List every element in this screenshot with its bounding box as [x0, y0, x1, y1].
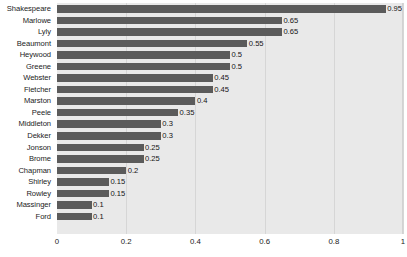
- category-label: Lyly: [0, 26, 54, 38]
- category-label: Shakespeare: [0, 3, 54, 15]
- category-label: Webster: [0, 72, 54, 84]
- bar: [57, 97, 195, 105]
- bar: [57, 28, 282, 36]
- bar-row: 0.5: [57, 49, 403, 61]
- category-label: Marlowe: [0, 15, 54, 27]
- bar-row: 0.5: [57, 61, 403, 73]
- bar-value-label: 0.1: [93, 201, 104, 209]
- bar-row: 0.95: [57, 3, 403, 15]
- bar: [57, 120, 161, 128]
- bar-row: 0.25: [57, 142, 403, 154]
- bar-value-label: 0.35: [180, 109, 195, 117]
- category-label: Marston: [0, 95, 54, 107]
- category-label: Heywood: [0, 49, 54, 61]
- bar: [57, 155, 144, 163]
- category-label: Massinger: [0, 199, 54, 211]
- bar-row: 0.4: [57, 95, 403, 107]
- category-label: Shirley: [0, 176, 54, 188]
- category-label: Brome: [0, 153, 54, 165]
- bar-value-label: 0.2: [128, 167, 139, 175]
- bar-row: 0.55: [57, 38, 403, 50]
- bar: [57, 86, 213, 94]
- bar: [57, 74, 213, 82]
- bar: [57, 40, 247, 48]
- bar: [57, 178, 109, 186]
- bar-value-label: 0.3: [162, 120, 173, 128]
- bar-value-label: 0.15: [110, 178, 125, 186]
- bar: [57, 63, 230, 71]
- plot-area: 0.950.650.650.550.50.50.450.450.40.350.3…: [57, 3, 403, 234]
- bar-row: 0.3: [57, 130, 403, 142]
- bar: [57, 5, 386, 13]
- bar-value-label: 0.55: [249, 40, 264, 48]
- bar-value-label: 0.5: [232, 51, 243, 59]
- bar: [57, 167, 126, 175]
- x-tick-label: 1: [401, 236, 405, 248]
- bar: [57, 213, 92, 221]
- x-axis-line: [57, 234, 403, 235]
- bar-row: 0.45: [57, 84, 403, 96]
- bar-row: 0.15: [57, 176, 403, 188]
- category-label: Greene: [0, 61, 54, 73]
- bar-value-label: 0.1: [93, 213, 104, 221]
- x-axis-ticks: 00.20.40.60.81: [57, 236, 403, 250]
- bar: [57, 144, 144, 152]
- bar-row: 0.35: [57, 107, 403, 119]
- category-label: Fletcher: [0, 84, 54, 96]
- bar-value-label: 0.15: [110, 190, 125, 198]
- bar-value-label: 0.45: [214, 86, 229, 94]
- gridline: [403, 3, 404, 234]
- bar: [57, 132, 161, 140]
- x-tick-label: 0.2: [121, 236, 132, 248]
- bar-chart: ShakespeareMarloweLylyBeaumontHeywoodGre…: [0, 0, 407, 257]
- bar-rows: 0.950.650.650.550.50.50.450.450.40.350.3…: [57, 3, 403, 234]
- bar-row: 0.2: [57, 165, 403, 177]
- category-axis: ShakespeareMarloweLylyBeaumontHeywoodGre…: [0, 3, 54, 234]
- bar-row: 0.25: [57, 153, 403, 165]
- x-tick-label: 0.8: [328, 236, 339, 248]
- bar-row: 0.65: [57, 15, 403, 27]
- bar-row: 0.1: [57, 211, 403, 223]
- bar-row: 0.65: [57, 26, 403, 38]
- bar-value-label: 0.25: [145, 155, 160, 163]
- bar-row: 0.3: [57, 118, 403, 130]
- category-label: Middleton: [0, 118, 54, 130]
- category-label: Ford: [0, 211, 54, 223]
- bar-row: 0.1: [57, 199, 403, 211]
- bar: [57, 51, 230, 59]
- bar-value-label: 0.45: [214, 74, 229, 82]
- x-tick-label: 0.4: [190, 236, 201, 248]
- x-tick-label: 0: [55, 236, 59, 248]
- bar-value-label: 0.3: [162, 132, 173, 140]
- bar-value-label: 0.25: [145, 144, 160, 152]
- bar-value-label: 0.95: [387, 5, 402, 13]
- x-tick-label: 0.6: [259, 236, 270, 248]
- bar: [57, 17, 282, 25]
- category-label: Peele: [0, 107, 54, 119]
- category-label: Beaumont: [0, 38, 54, 50]
- bar-row: 0.45: [57, 72, 403, 84]
- category-label: Jonson: [0, 142, 54, 154]
- plot-right-border: [402, 3, 403, 234]
- category-label: Dekker: [0, 130, 54, 142]
- bar-value-label: 0.4: [197, 97, 208, 105]
- bar-row: 0.15: [57, 188, 403, 200]
- bar-value-label: 0.5: [232, 63, 243, 71]
- bar-value-label: 0.65: [283, 17, 298, 25]
- category-label: Rowley: [0, 188, 54, 200]
- category-label: Chapman: [0, 165, 54, 177]
- bar: [57, 109, 178, 117]
- bar-value-label: 0.65: [283, 28, 298, 36]
- bar: [57, 201, 92, 209]
- bar: [57, 190, 109, 198]
